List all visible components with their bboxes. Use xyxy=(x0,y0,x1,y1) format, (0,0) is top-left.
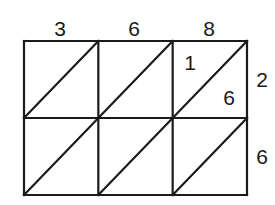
cell-diagonal xyxy=(98,41,172,118)
lattice-diagram: 3 6 8 2 6 1 6 xyxy=(0,0,275,205)
multiplier-digit-1: 2 xyxy=(256,68,268,91)
multiplier-digit-2: 6 xyxy=(256,145,268,168)
grid-lines xyxy=(24,41,247,195)
cell-diagonal xyxy=(24,118,98,195)
cell-ones-digit: 6 xyxy=(223,86,235,109)
cell-diagonal xyxy=(98,118,172,195)
multiplicand-digit-2: 6 xyxy=(128,17,140,40)
cell-diagonal xyxy=(173,118,247,195)
cell-tens-digit: 1 xyxy=(184,51,196,74)
cell-diagonal xyxy=(24,41,98,118)
multiplicand-digit-1: 3 xyxy=(54,17,66,40)
multiplicand-digit-3: 8 xyxy=(203,17,215,40)
